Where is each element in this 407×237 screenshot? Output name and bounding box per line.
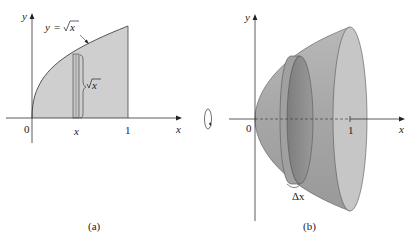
- figure: y x 0 x 1 y = x x (a): [0, 0, 407, 237]
- caption-b: (b): [303, 220, 316, 233]
- tick-one-label: 1: [125, 124, 131, 136]
- origin-label: 0: [246, 122, 252, 134]
- curve-label: y = x: [44, 21, 79, 33]
- x-axis-arrow-icon: [176, 116, 182, 121]
- curve-label-equals: =: [54, 21, 60, 33]
- caption-a: (a): [88, 220, 101, 233]
- strip-height-label-x: x: [91, 79, 97, 91]
- tick-x-label: x: [73, 125, 79, 137]
- origin-label: 0: [24, 123, 30, 135]
- curve-label-y: y: [44, 21, 50, 33]
- x-axis-arrow-icon: [399, 117, 405, 122]
- rotation-icon: [205, 109, 212, 129]
- x-axis-label: x: [175, 123, 181, 135]
- curve-label-x: x: [69, 21, 75, 33]
- y-axis-label: y: [244, 11, 250, 23]
- disk-width-brace: [287, 184, 299, 188]
- panel-a: y x 0 x 1 y = x x (a): [6, 10, 182, 233]
- y-axis-arrow-icon: [30, 13, 35, 19]
- disk-face: [287, 56, 313, 184]
- tick-one-label: 1: [348, 124, 354, 136]
- x-axis-label: x: [398, 123, 404, 135]
- region-under-curve: [32, 26, 128, 118]
- disk-width-label: Δx: [292, 190, 305, 202]
- y-axis-label: y: [21, 10, 27, 22]
- y-axis-arrow-icon: [253, 14, 258, 20]
- panel-b: y x 0 1 Δx (b): [205, 11, 406, 233]
